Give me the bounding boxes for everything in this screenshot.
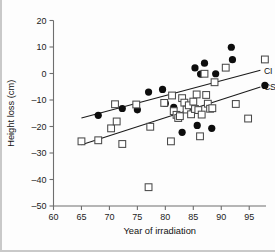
y-axis-tick-label: –50 [31, 201, 46, 211]
data-point-csi [113, 118, 120, 125]
data-point-csi [133, 101, 140, 108]
data-point-csi [203, 92, 210, 99]
data-point-csi [245, 115, 252, 122]
series-label-csi: CSI [264, 82, 275, 92]
x-axis-tick-label: 85 [188, 212, 198, 222]
x-axis-tick-label: 90 [216, 212, 226, 222]
data-point-csi [119, 141, 126, 148]
y-axis-tick-label: –10 [31, 95, 46, 105]
data-point-ci [95, 112, 102, 119]
data-point-csi [222, 64, 229, 71]
y-axis-tick-label: –30 [31, 148, 46, 158]
data-point-ci [194, 122, 201, 129]
data-point-ci [119, 105, 126, 112]
data-point-ci [145, 88, 152, 95]
data-point-csi [209, 105, 216, 112]
data-point-ci [208, 125, 215, 132]
x-axis-title: Year of irradiation [123, 226, 196, 236]
x-axis-tick-label: 80 [160, 212, 170, 222]
y-axis-tick-label: –20 [31, 122, 46, 132]
data-point-csi [108, 125, 115, 132]
y-axis-title: Height loss (cm) [6, 80, 16, 147]
data-point-ci [179, 129, 186, 136]
x-axis-tick-label: 60 [48, 212, 58, 222]
data-point-ci [201, 60, 208, 67]
y-axis-tick-label: 20 [36, 16, 46, 26]
data-point-csi [168, 138, 175, 145]
data-point-ci [212, 70, 219, 77]
data-point-csi [169, 92, 176, 99]
data-point-csi [197, 133, 204, 140]
data-point-csi [261, 56, 268, 63]
scatter-plot: 20100–10–20–30–40–506065707580859095Year… [0, 0, 275, 252]
data-point-csi [193, 91, 200, 98]
data-point-csi [78, 138, 85, 145]
x-axis-tick-label: 65 [76, 212, 86, 222]
x-axis-tick-label: 75 [132, 212, 142, 222]
series-label-ci: CI [264, 66, 273, 76]
x-axis-tick-label: 95 [244, 212, 254, 222]
data-point-csi [198, 111, 205, 118]
data-point-csi [201, 70, 208, 77]
data-point-csi [190, 98, 197, 105]
data-point-csi [95, 137, 102, 144]
data-point-csi [147, 123, 154, 130]
x-axis-tick-label: 70 [104, 212, 114, 222]
data-point-csi [211, 79, 218, 86]
y-axis-tick-label: 0 [41, 69, 46, 79]
data-point-csi [112, 101, 119, 108]
data-point-ci [191, 64, 198, 71]
data-point-csi [145, 184, 152, 191]
y-axis-tick-label: –40 [31, 175, 46, 185]
data-point-csi [176, 113, 183, 120]
data-point-ci [159, 86, 166, 93]
data-point-ci [229, 56, 236, 63]
y-axis-tick-label: 10 [36, 42, 46, 52]
data-point-csi [161, 100, 168, 107]
data-point-ci [228, 44, 235, 51]
data-point-csi [232, 101, 239, 108]
chart-figure: 20100–10–20–30–40–506065707580859095Year… [0, 0, 275, 252]
